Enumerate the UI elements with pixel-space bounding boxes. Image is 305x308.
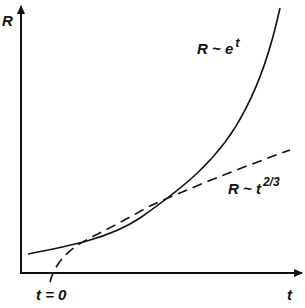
power-law-label-base: R ~ t <box>228 180 261 197</box>
exponential-label-base: R ~ e <box>197 40 233 57</box>
x-axis-label: t <box>287 286 292 303</box>
plot-canvas <box>0 0 305 308</box>
y-axis-label: R <box>2 12 13 29</box>
power-law-curve <box>50 150 290 282</box>
exponential-label-exp: t <box>235 35 239 50</box>
origin-label: t = 0 <box>36 286 66 303</box>
power-law-label: R ~ t2/3 <box>228 180 280 197</box>
exponential-curve <box>28 8 280 254</box>
exponential-label: R ~ et <box>197 40 240 57</box>
diagram: R t t = 0 R ~ et R ~ t2/3 <box>0 0 305 308</box>
power-law-label-exp: 2/3 <box>263 175 280 189</box>
